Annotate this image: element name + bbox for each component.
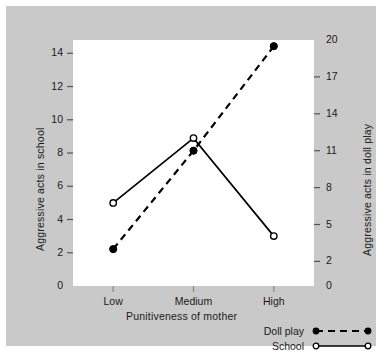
right-tick-11: 11 [326, 144, 356, 156]
category-label-low: Low [78, 295, 148, 307]
left-tick-10: 10 [33, 113, 63, 125]
x-axis-title: Punitiveness of mother [126, 310, 237, 322]
x-axis-ticks [113, 286, 274, 292]
right-tick-8: 8 [326, 181, 356, 193]
left-tick-14: 14 [33, 46, 63, 58]
left-axis-ticks [67, 53, 73, 252]
right-tick-2: 2 [326, 254, 356, 266]
legend-label-doll-play: Doll play [264, 325, 304, 337]
right-tick-0: 0 [326, 279, 356, 291]
right-tick-14: 14 [326, 107, 356, 119]
legend-label-school: School [272, 340, 304, 352]
right-tick-17: 17 [326, 70, 356, 82]
left-tick-12: 12 [33, 80, 63, 92]
data-point-doll-play-medium [190, 147, 197, 154]
category-label-medium: Medium [159, 295, 229, 307]
data-point-school-medium [190, 135, 196, 141]
right-axis-title: Aggressive acts in doll play [361, 124, 373, 256]
legend-item-school[interactable]: School [228, 338, 373, 353]
right-tick-20: 20 [326, 33, 356, 45]
data-point-school-high [271, 233, 277, 239]
figure-panel: Aggressive acts in school Aggressive act… [6, 6, 376, 346]
data-point-doll-play-high [270, 43, 277, 50]
left-tick-4: 4 [33, 213, 63, 225]
right-tick-5: 5 [326, 218, 356, 230]
left-tick-8: 8 [33, 146, 63, 158]
left-tick-0: 0 [33, 279, 63, 291]
data-point-doll-play-low [110, 246, 117, 253]
legend-marker-solid-open [311, 340, 373, 352]
right-axis-ticks [314, 77, 320, 262]
category-label-high: High [239, 295, 309, 307]
legend-item-doll-play[interactable]: Doll play [228, 323, 373, 338]
data-point-school-low [110, 200, 116, 206]
left-tick-2: 2 [33, 246, 63, 258]
left-tick-6: 6 [33, 179, 63, 191]
legend-marker-dashed-filled [311, 325, 373, 337]
chart-legend: Doll play School [228, 323, 373, 353]
